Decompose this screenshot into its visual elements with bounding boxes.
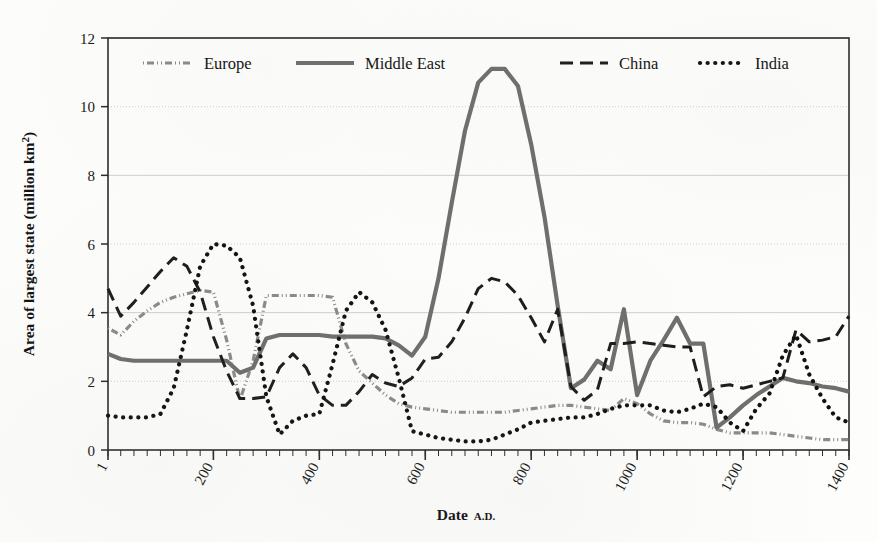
- x-tick-label-1200: 1200: [718, 460, 746, 494]
- chart-legend[interactable]: EuropeMiddle EastChinaIndia: [143, 54, 790, 73]
- y-tick-label-8: 8: [88, 168, 96, 184]
- y-axis-title-main: Area of largest state (million km: [20, 142, 38, 356]
- data-series-group: [108, 69, 849, 442]
- series-line-china: [108, 258, 849, 406]
- y-tick-label-4: 4: [88, 305, 96, 321]
- legend-item-europe[interactable]: Europe: [143, 54, 252, 73]
- y-tick-label-10: 10: [80, 99, 95, 115]
- legend-label-china: China: [619, 54, 659, 73]
- legend-item-china[interactable]: China: [560, 54, 659, 73]
- y-axis-title-close: ): [20, 132, 38, 137]
- x-tick-label-1400: 1400: [823, 460, 851, 494]
- y-tick-label-6: 6: [88, 237, 96, 253]
- x-axis-title-text: DateA.D.: [437, 506, 496, 523]
- x-axis-title-main: Date: [437, 506, 468, 523]
- x-tick-label-1: 1: [93, 460, 111, 474]
- line-chart: 024681012 1200400600800100012001400 Euro…: [0, 0, 877, 542]
- legend-item-middle-east[interactable]: Middle East: [296, 54, 446, 73]
- legend-label-india: India: [755, 54, 790, 73]
- legend-label-middle-east: Middle East: [365, 54, 446, 73]
- y-tick-label-0: 0: [88, 443, 96, 459]
- x-tick-label-600: 600: [403, 460, 428, 487]
- x-axis-ticks: 1200400600800100012001400: [93, 450, 852, 494]
- x-axis-title-era: A.D.: [474, 510, 496, 522]
- y-axis-title: Area of largest state (million km2): [19, 132, 38, 356]
- y-tick-label-2: 2: [88, 374, 96, 390]
- series-line-middle-east: [108, 69, 849, 428]
- legend-label-europe: Europe: [204, 54, 252, 73]
- y-axis-title-text: Area of largest state (million km2): [19, 132, 38, 356]
- x-tick-label-800: 800: [509, 460, 534, 487]
- x-axis-title: DateA.D.: [437, 506, 496, 523]
- x-tick-label-400: 400: [297, 460, 322, 487]
- y-axis-ticks: 024681012: [80, 31, 108, 459]
- y-tick-label-12: 12: [80, 31, 95, 47]
- figure-container: 024681012 1200400600800100012001400 Euro…: [0, 0, 877, 542]
- x-tick-label-1000: 1000: [612, 460, 640, 494]
- legend-item-india[interactable]: India: [700, 54, 790, 73]
- x-tick-label-200: 200: [191, 460, 216, 487]
